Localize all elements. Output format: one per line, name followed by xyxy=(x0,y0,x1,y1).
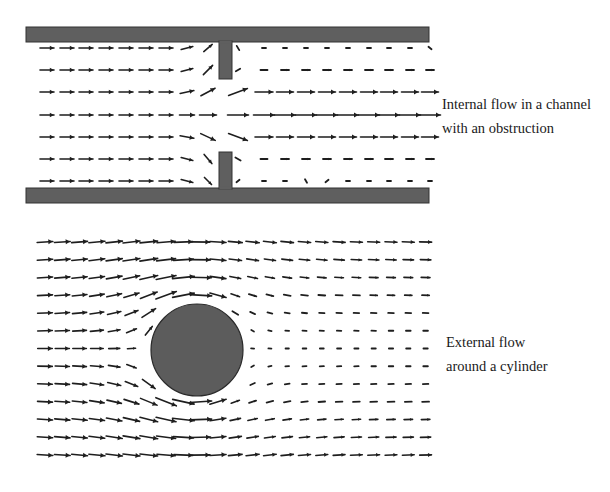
velocity-arrow-icon xyxy=(281,453,293,457)
velocity-arrow-icon xyxy=(123,418,139,423)
velocity-arrow-icon xyxy=(316,453,328,457)
external-flow-caption: External flow around a cylinder xyxy=(446,330,547,378)
velocity-arrow-icon xyxy=(386,435,396,438)
velocity-arrow-icon xyxy=(140,291,157,298)
velocity-arrow-icon xyxy=(174,239,193,244)
velocity-arrow-icon xyxy=(72,293,87,298)
velocity-arrow-icon xyxy=(108,310,121,314)
velocity-arrow-icon xyxy=(72,257,88,262)
velocity-arrow-icon xyxy=(247,435,258,439)
velocity-arrow-icon xyxy=(38,382,53,387)
velocity-arrow-icon xyxy=(250,312,255,314)
velocity-arrow-icon xyxy=(387,276,396,279)
velocity-arrow-icon xyxy=(232,311,238,315)
velocity-arrow-icon xyxy=(90,400,104,405)
velocity-arrow-icon xyxy=(249,400,256,403)
velocity-arrow-icon xyxy=(228,452,242,457)
velocity-arrow-icon xyxy=(37,435,52,440)
velocity-arrow-icon xyxy=(368,240,380,244)
velocity-arrow-icon xyxy=(264,258,275,262)
velocity-arrow-icon xyxy=(90,292,105,297)
velocity-arrow-icon xyxy=(403,436,413,439)
velocity-arrow-icon xyxy=(268,383,273,384)
velocity-arrow-icon xyxy=(335,418,343,421)
velocity-arrow-icon xyxy=(89,453,105,458)
velocity-arrow-icon xyxy=(73,364,87,369)
velocity-arrow-icon xyxy=(141,398,157,405)
velocity-arrow-icon xyxy=(90,310,104,315)
velocity-arrow-icon xyxy=(108,365,120,369)
velocity-arrow-icon xyxy=(123,453,140,458)
velocity-arrow-icon xyxy=(38,328,53,333)
velocity-arrow-icon xyxy=(301,401,307,402)
velocity-arrow-icon xyxy=(142,379,155,388)
velocity-arrow-icon xyxy=(72,239,88,244)
velocity-arrow-icon xyxy=(55,364,69,369)
velocity-arrow-icon xyxy=(228,240,242,245)
velocity-arrow-icon xyxy=(300,276,309,279)
velocity-arrow-icon xyxy=(210,434,226,439)
velocity-arrow-icon xyxy=(90,364,103,368)
velocity-arrow-icon xyxy=(387,418,395,421)
velocity-arrow-icon xyxy=(72,275,87,280)
caption-line: Internal flow in a channel xyxy=(442,92,591,116)
velocity-arrow-icon xyxy=(247,258,259,262)
velocity-arrow-icon xyxy=(265,276,274,279)
velocity-arrow-icon xyxy=(38,310,53,315)
velocity-arrow-icon xyxy=(369,276,378,279)
velocity-arrow-icon xyxy=(210,258,226,263)
velocity-arrow-icon xyxy=(55,293,70,298)
velocity-arrow-icon xyxy=(246,240,259,244)
velocity-arrow-icon xyxy=(385,453,397,457)
velocity-arrow-icon xyxy=(351,453,363,457)
velocity-arrow-icon xyxy=(267,401,274,403)
caption-line: around a cylinder xyxy=(446,354,547,378)
velocity-arrow-icon xyxy=(37,239,53,244)
velocity-arrow-icon xyxy=(210,240,226,245)
velocity-arrow-icon xyxy=(72,400,87,405)
velocity-arrow-icon xyxy=(404,276,413,279)
velocity-arrow-icon xyxy=(72,453,88,458)
caption-line: with an obstruction xyxy=(442,116,591,140)
velocity-arrow-icon xyxy=(55,346,69,351)
velocity-arrow-icon xyxy=(420,258,431,261)
velocity-arrow-icon xyxy=(421,418,430,421)
velocity-arrow-icon xyxy=(251,366,254,367)
velocity-arrow-icon xyxy=(267,312,272,313)
velocity-arrow-icon xyxy=(106,257,122,262)
velocity-arrow-icon xyxy=(387,294,394,296)
velocity-arrow-icon xyxy=(404,418,413,421)
velocity-arrow-icon xyxy=(125,381,137,387)
velocity-arrow-icon xyxy=(281,240,294,244)
velocity-arrow-icon xyxy=(191,240,209,245)
velocity-arrow-icon xyxy=(140,436,158,441)
velocity-arrow-icon xyxy=(335,276,344,279)
velocity-arrow-icon xyxy=(210,276,226,281)
velocity-arrow-icon xyxy=(250,383,254,385)
velocity-arrow-icon xyxy=(127,328,137,332)
velocity-arrow-icon xyxy=(89,435,105,440)
velocity-arrow-icon xyxy=(37,257,52,262)
velocity-arrow-icon xyxy=(54,453,70,458)
velocity-arrow-icon xyxy=(421,276,430,279)
velocity-arrow-icon xyxy=(369,435,379,438)
velocity-arrow-icon xyxy=(107,292,122,297)
velocity-arrow-icon xyxy=(299,435,309,438)
velocity-arrow-icon xyxy=(125,310,138,316)
velocity-arrow-icon xyxy=(37,417,52,422)
velocity-arrow-icon xyxy=(140,239,158,244)
velocity-arrow-icon xyxy=(106,435,122,440)
velocity-arrow-icon xyxy=(157,257,176,262)
velocity-arrow-icon xyxy=(123,435,140,440)
velocity-arrow-icon xyxy=(282,258,293,262)
velocity-arrow-icon xyxy=(403,258,414,261)
velocity-arrow-icon xyxy=(55,417,70,422)
velocity-arrow-icon xyxy=(210,416,226,421)
velocity-arrow-icon xyxy=(422,294,429,296)
velocity-arrow-icon xyxy=(386,258,396,261)
velocity-arrow-icon xyxy=(38,346,53,351)
velocity-arrow-icon xyxy=(248,418,257,421)
velocity-arrow-icon xyxy=(157,239,175,244)
velocity-arrow-icon xyxy=(89,417,104,422)
velocity-arrow-icon xyxy=(249,294,256,297)
